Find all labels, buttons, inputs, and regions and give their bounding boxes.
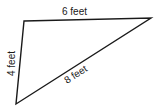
- side-label-left: 4 feet: [6, 51, 17, 76]
- triangle-shape: [16, 18, 151, 104]
- triangle-diagram: 6 feet 4 feet 8 feet: [0, 0, 161, 112]
- side-label-top: 6 feet: [62, 6, 87, 17]
